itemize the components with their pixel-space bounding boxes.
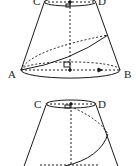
top-center-point xyxy=(69,1,72,4)
label-A: A xyxy=(8,68,16,80)
arrow-head xyxy=(98,68,102,72)
bottom-center-point xyxy=(69,69,72,72)
label-C-top: C xyxy=(33,0,40,7)
label-C-bottom: C xyxy=(34,98,41,110)
diagram-canvas: C D A B C D xyxy=(0,0,136,166)
left-generatrix xyxy=(21,3,44,70)
left-generatrix-2 xyxy=(22,105,46,166)
label-D-top: D xyxy=(98,0,106,7)
label-D-bottom: D xyxy=(98,98,106,110)
label-B: B xyxy=(124,68,131,80)
right-angle-mark-bottom xyxy=(64,62,70,67)
right-angle-mark-2 xyxy=(65,105,70,108)
frustum-top xyxy=(21,0,120,78)
spiral-path-back-2 xyxy=(74,108,108,134)
right-generatrix xyxy=(96,3,120,70)
